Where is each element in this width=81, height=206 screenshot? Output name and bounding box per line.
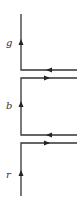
arrow-left-icon [46, 133, 52, 138]
arrow-up-icon [19, 170, 24, 176]
arrow-right-icon [44, 141, 50, 146]
segment-r-path [21, 143, 77, 196]
arrow-right-icon [44, 76, 50, 81]
segment-g-path [21, 14, 77, 70]
label-b: b [6, 100, 12, 111]
arrow-up-icon [19, 101, 24, 107]
arrow-up-icon [19, 39, 24, 45]
arrow-left-icon [46, 68, 52, 73]
label-g: g [6, 37, 12, 48]
segment-b-path [21, 78, 77, 135]
label-r: r [6, 169, 12, 180]
flow-diagram: g b r [0, 0, 81, 206]
